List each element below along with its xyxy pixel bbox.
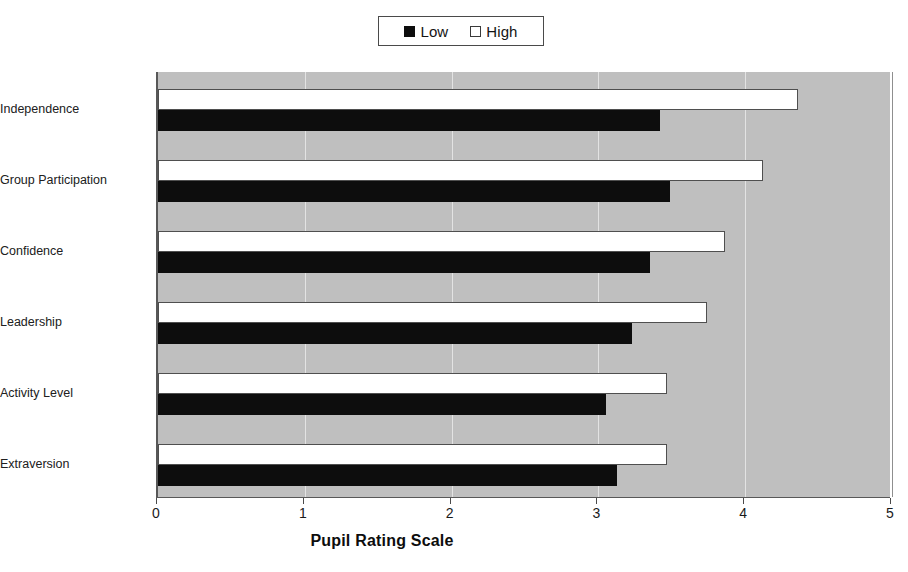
x-tick-mark-4 <box>743 498 744 504</box>
bar-low-activity-level <box>158 394 606 415</box>
bar-high-independence <box>158 89 798 110</box>
x-tick-mark-5 <box>890 498 891 504</box>
x-axis-ticks: 012345 <box>0 498 908 528</box>
x-axis-title-text: Pupil Rating Scale <box>310 532 453 550</box>
bar-high-leadership <box>158 302 707 323</box>
chart-legend: Low High <box>378 16 544 46</box>
legend-label-low: Low <box>420 24 448 39</box>
gridline-1 <box>305 72 306 497</box>
bar-high-confidence <box>158 231 725 252</box>
gridline-2 <box>452 72 453 497</box>
x-tick-mark-0 <box>156 498 157 504</box>
bar-low-extraversion <box>158 465 617 486</box>
x-axis-title: Pupil Rating Scale <box>0 532 908 550</box>
bar-low-independence <box>158 110 660 131</box>
x-tick-label-1: 1 <box>299 506 307 520</box>
bar-low-group-participation <box>158 181 670 202</box>
x-tick-mark-3 <box>596 498 597 504</box>
bar-high-activity-level <box>158 373 667 394</box>
bar-low-leadership <box>158 323 632 344</box>
empty-square-icon <box>470 26 481 37</box>
x-tick-mark-1 <box>303 498 304 504</box>
x-tick-label-4: 4 <box>739 506 747 520</box>
gridline-5 <box>892 72 893 497</box>
legend-entry-high: High <box>470 24 517 39</box>
x-tick-label-3: 3 <box>592 506 600 520</box>
bar-high-group-participation <box>158 160 763 181</box>
x-tick-label-0: 0 <box>152 506 160 520</box>
x-tick-mark-2 <box>450 498 451 504</box>
bar-high-extraversion <box>158 444 667 465</box>
chart-plot-area <box>156 72 890 498</box>
gridline-4 <box>745 72 746 497</box>
legend-entry-low: Low <box>404 24 448 39</box>
filled-square-icon <box>404 26 415 37</box>
legend-label-high: High <box>486 24 517 39</box>
x-tick-label-5: 5 <box>886 506 894 520</box>
bar-low-confidence <box>158 252 650 273</box>
chart-bars-container <box>158 72 890 497</box>
x-tick-label-2: 2 <box>446 506 454 520</box>
y-axis-category-labels: IndependenceGroup ParticipationConfidenc… <box>0 72 148 498</box>
gridline-3 <box>598 72 599 497</box>
